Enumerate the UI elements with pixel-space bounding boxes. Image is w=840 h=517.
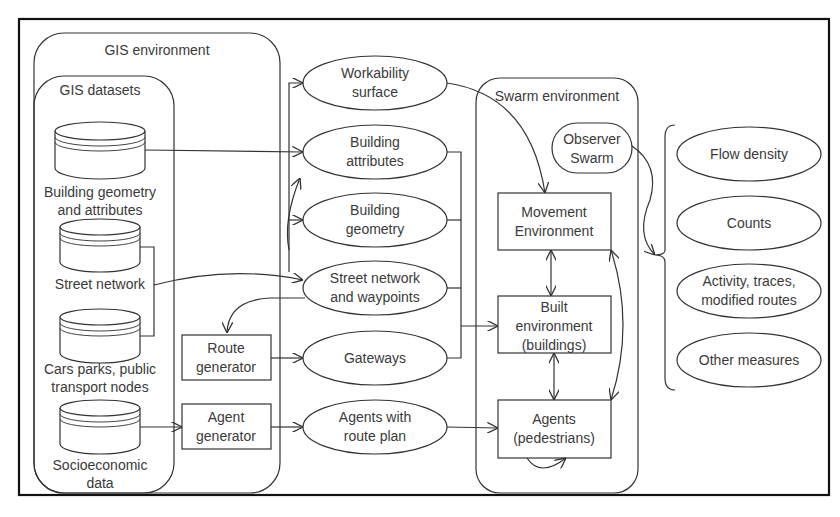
- svg-text:Workability: Workability: [341, 65, 409, 81]
- arrow-street-network: [154, 274, 303, 285]
- svg-text:Activity, traces,: Activity, traces,: [702, 273, 795, 289]
- svg-text:(pedestrians): (pedestrians): [513, 430, 595, 446]
- route-generator-box: Route generator: [182, 335, 271, 380]
- svg-text:Cars parks, public: Cars parks, public: [44, 361, 156, 377]
- svg-text:Street network: Street network: [55, 276, 146, 292]
- svg-text:Agent: Agent: [208, 409, 245, 425]
- svg-text:Environment: Environment: [515, 223, 594, 239]
- gis-environment-label: GIS environment: [104, 42, 209, 58]
- svg-text:Swarm: Swarm: [570, 150, 614, 166]
- architecture-diagram: GIS environment GIS datasets Building ge…: [0, 0, 840, 517]
- svg-text:transport nodes: transport nodes: [51, 379, 148, 395]
- svg-text:generator: generator: [196, 428, 256, 444]
- svg-text:Street network: Street network: [330, 270, 421, 286]
- agent-generator-box: Agent generator: [182, 404, 271, 449]
- svg-text:attributes: attributes: [346, 153, 404, 169]
- swarm-environment-label: Swarm environment: [495, 88, 620, 104]
- outputs-brace: [655, 125, 675, 390]
- svg-text:and waypoints: and waypoints: [330, 289, 420, 305]
- layer-gateways: Gateways: [303, 331, 447, 385]
- observer-swarm: Observer Swarm: [552, 123, 632, 173]
- dataset-street-network: Street network: [55, 219, 146, 292]
- movement-environment-box: Movement Environment: [498, 193, 611, 250]
- output-other-measures: Other measures: [677, 333, 821, 387]
- svg-text:generator: generator: [196, 359, 256, 375]
- svg-text:route plan: route plan: [344, 428, 406, 444]
- arrow-dataset-to-building-attributes: [145, 150, 303, 152]
- svg-text:(buildings): (buildings): [522, 337, 587, 353]
- svg-text:data: data: [86, 475, 113, 491]
- svg-text:Flow density: Flow density: [710, 146, 788, 162]
- svg-text:Building: Building: [350, 134, 400, 150]
- dataset-car-parks: Cars parks, public transport nodes: [44, 309, 156, 395]
- layer-street-network-waypoints: Street network and waypoints: [303, 261, 447, 315]
- database-icon: [60, 219, 140, 272]
- svg-text:Movement: Movement: [521, 204, 586, 220]
- svg-text:surface: surface: [352, 84, 398, 100]
- layer-workability-surface: Workability surface: [303, 56, 447, 110]
- gis-datasets-label: GIS datasets: [60, 82, 141, 98]
- arrow-agents-movement: [611, 250, 623, 400]
- svg-text:Agents with: Agents with: [339, 409, 411, 425]
- output-counts: Counts: [677, 196, 821, 250]
- svg-text:geometry: geometry: [346, 221, 404, 237]
- built-environment-box: Built environment (buildings): [498, 296, 611, 353]
- svg-text:environment: environment: [515, 318, 592, 334]
- database-icon: [55, 122, 145, 179]
- svg-text:and attributes: and attributes: [58, 202, 143, 218]
- svg-text:Built: Built: [540, 299, 567, 315]
- agents-pedestrians-box: Agents (pedestrians): [498, 400, 611, 458]
- layer-agents-route-plan: Agents with route plan: [303, 400, 447, 454]
- svg-text:modified routes: modified routes: [701, 292, 797, 308]
- svg-text:Socioeconomic: Socioeconomic: [53, 457, 148, 473]
- layer-building-attributes: Building attributes: [303, 125, 447, 179]
- svg-text:Other measures: Other measures: [699, 352, 799, 368]
- output-flow-density: Flow density: [677, 127, 821, 181]
- dataset-socioeconomic: Socioeconomic data: [53, 400, 148, 491]
- output-activity-traces: Activity, traces, modified routes: [677, 264, 821, 318]
- svg-text:Route: Route: [207, 340, 245, 356]
- database-icon: [60, 309, 140, 363]
- svg-text:Counts: Counts: [727, 215, 771, 231]
- arrow-to-workability: [289, 83, 303, 272]
- arrow-agents-self-loop: [527, 458, 566, 468]
- layers-collector: [447, 152, 461, 358]
- database-icon: [60, 400, 140, 454]
- svg-text:Building: Building: [350, 202, 400, 218]
- arrow-to-route-generator: [227, 298, 305, 333]
- arrow-observer-to-outputs: [632, 146, 655, 255]
- svg-text:Agents: Agents: [532, 411, 576, 427]
- svg-text:Observer: Observer: [563, 131, 621, 147]
- arrow-to-agents-pedestrians: [447, 427, 498, 428]
- svg-text:Building geometry: Building geometry: [44, 184, 156, 200]
- layer-building-geometry: Building geometry: [303, 193, 447, 247]
- dataset-building-geometry: Building geometry and attributes: [44, 122, 156, 218]
- svg-text:Gateways: Gateways: [344, 350, 406, 366]
